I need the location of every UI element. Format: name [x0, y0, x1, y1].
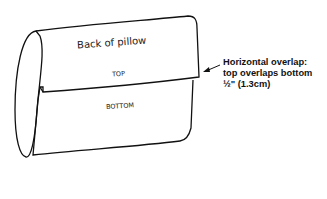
- pillow-end-cap: [15, 31, 42, 157]
- top-flap-outline: [36, 16, 199, 92]
- pillow-diagram: Back of pillow TOP BOTTOM: [0, 0, 327, 199]
- annotation-line-1: Horizontal overlap:: [223, 57, 312, 68]
- annotation-line-2: top overlaps bottom: [223, 68, 312, 79]
- arrow-head-icon: [203, 67, 210, 72]
- annotation-line-3: ½" (1.3cm): [223, 79, 312, 90]
- bottom-label: BOTTOM: [106, 101, 135, 111]
- overlap-annotation: Horizontal overlap: top overlaps bottom …: [223, 57, 312, 90]
- title-label: Back of pillow: [77, 35, 147, 51]
- top-label: TOP: [111, 70, 126, 79]
